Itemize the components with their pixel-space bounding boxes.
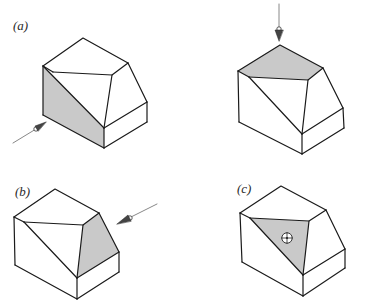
panel-a-shaded-face (43, 66, 104, 148)
panel-a-block (43, 38, 147, 148)
panel-b-label: (b) (15, 185, 30, 198)
diagram-canvas (0, 0, 370, 302)
panel-c-block (240, 186, 345, 296)
panel-b-block (14, 189, 119, 299)
panel-top-block (238, 45, 344, 154)
panel-a-view-arrow (13, 122, 46, 143)
panel-c-sight-target-icon (282, 233, 293, 244)
panel-top-view-arrow (275, 4, 283, 41)
panel-c-shaded-face (250, 218, 309, 275)
panel-a-label: (a) (13, 19, 28, 32)
panel-b-shaded-face (77, 213, 119, 278)
panel-c-label: (c) (237, 182, 251, 195)
panel-b-view-arrow (117, 204, 157, 224)
